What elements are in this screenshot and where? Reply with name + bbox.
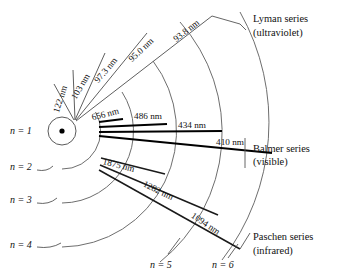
- series-label-balmer-name: Balmer series: [253, 143, 310, 154]
- level-arc-n3: [62, 92, 133, 203]
- leader-n5: [168, 238, 180, 254]
- nucleus-dot: [59, 128, 64, 133]
- wavelength-label-122nm: 122 nm: [51, 84, 69, 114]
- series-label-paschen-range: (infrared): [253, 245, 293, 257]
- level-label-n2: n = 2: [10, 161, 32, 172]
- level-leader-lines: [37, 166, 61, 248]
- leader-paschen: [240, 233, 250, 249]
- level-arc-n6: [222, 12, 269, 260]
- wavelength-label-486nm: 486 nm: [134, 111, 162, 121]
- wavelength-label-103nm: 103 nm: [69, 72, 92, 101]
- leader-lyman: [212, 16, 246, 30]
- leader-n4: [37, 243, 61, 248]
- level-label-n4: n = 4: [10, 239, 32, 250]
- level-label-n1: n = 1: [10, 125, 32, 136]
- level-label-n5: n = 5: [150, 259, 172, 270]
- wavelength-label-410nm: 410 nm: [216, 137, 244, 147]
- leader-n6: [228, 244, 238, 258]
- paschen-wavelength-labels: 1875 nm 1282 nm 1094 nm: [102, 156, 222, 236]
- series-label-balmer-range: (visible): [253, 156, 288, 168]
- wavelength-label-1282nm: 1282 nm: [142, 179, 176, 202]
- wavelength-label-1875nm: 1875 nm: [102, 156, 136, 174]
- series-label-lyman-name: Lyman series: [253, 13, 308, 24]
- leader-n2: [37, 166, 53, 171]
- wavelength-label-93-8nm: 93.8 nm: [171, 17, 201, 43]
- bohr-model-svg: 122 nm 103 nm 97.3 nm 95.0 nm 93.8 nm 65…: [0, 0, 341, 277]
- paschen-line-1094nm: [99, 170, 240, 249]
- balmer-line-410nm: [99, 136, 272, 153]
- wavelength-label-97-3nm: 97.3 nm: [92, 55, 119, 85]
- series-labels: Lyman series (ultraviolet) Balmer series…: [253, 13, 313, 257]
- series-label-lyman-range: (ultraviolet): [253, 27, 303, 39]
- level-label-n6: n = 6: [212, 259, 234, 270]
- wavelength-label-434nm: 434 nm: [178, 120, 206, 130]
- series-label-paschen-name: Paschen series: [253, 231, 313, 242]
- leader-n3: [37, 198, 57, 203]
- level-label-n3: n = 3: [10, 194, 32, 205]
- balmer-line-434nm: [99, 131, 222, 132]
- diagram-canvas: 122 nm 103 nm 97.3 nm 95.0 nm 93.8 nm 65…: [0, 0, 341, 277]
